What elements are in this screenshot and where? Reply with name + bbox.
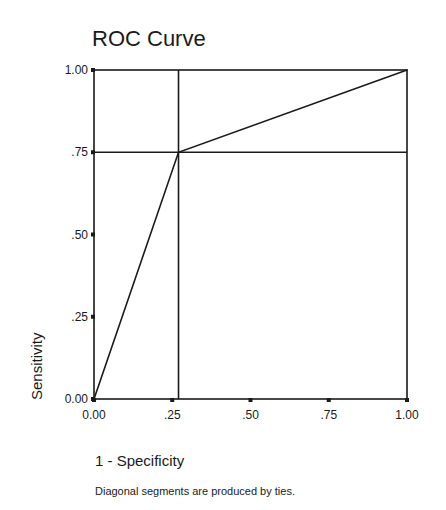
x-axis-label: 1 - Specificity bbox=[95, 452, 184, 469]
x-tick-mark bbox=[405, 398, 409, 402]
x-tick-label: 0.00 bbox=[82, 408, 106, 422]
y-tick-label: 1.00 bbox=[65, 63, 89, 77]
y-tick-mark bbox=[91, 68, 95, 72]
y-axis-label: Sensitivity bbox=[28, 332, 45, 400]
y-tick-mark bbox=[91, 397, 95, 401]
footnote: Diagonal segments are produced by ties. bbox=[95, 485, 295, 497]
ticks-group: 0.00.25.50.751.000.00.25.50.751.00 bbox=[65, 63, 419, 422]
y-tick-label: .50 bbox=[71, 228, 88, 242]
x-tick-label: 1.00 bbox=[395, 408, 419, 422]
y-tick-label: 0.00 bbox=[65, 392, 89, 406]
roc-chart: 0.00.25.50.751.000.00.25.50.751.00 bbox=[0, 0, 446, 510]
x-tick-label: .50 bbox=[242, 408, 259, 422]
x-tick-label: .25 bbox=[164, 408, 181, 422]
roc-curve-line bbox=[94, 70, 407, 399]
y-tick-mark bbox=[91, 150, 95, 154]
x-tick-label: .75 bbox=[320, 408, 337, 422]
roc-point bbox=[406, 69, 408, 71]
plot-frame bbox=[94, 70, 407, 399]
series-group bbox=[93, 69, 408, 400]
x-tick-mark bbox=[249, 398, 253, 402]
y-tick-mark bbox=[91, 315, 95, 319]
roc-point bbox=[178, 151, 180, 153]
axes bbox=[94, 70, 407, 399]
y-tick-label: .75 bbox=[71, 145, 88, 159]
x-tick-mark bbox=[170, 398, 174, 402]
y-tick-mark bbox=[91, 233, 95, 237]
y-tick-label: .25 bbox=[71, 310, 88, 324]
reference-lines bbox=[94, 70, 407, 399]
x-tick-mark bbox=[327, 398, 331, 402]
